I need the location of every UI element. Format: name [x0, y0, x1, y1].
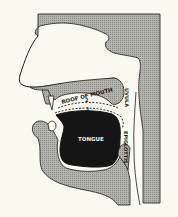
epiglottis-label: EPIGLOTTIS: [123, 131, 129, 164]
position-1-label: 1: [86, 106, 90, 112]
tongue-label: TONGUE: [78, 136, 104, 142]
uvula-label: UVULA: [124, 88, 130, 107]
mouth-cross-section-diagram: ROOF OF MOUTH 2 1 UVULA TONGUE EPIGLOTTI…: [0, 0, 178, 217]
pharynx-wall: [134, 92, 140, 205]
lower-tooth: [48, 121, 56, 131]
position-2-label: 2: [85, 97, 89, 103]
